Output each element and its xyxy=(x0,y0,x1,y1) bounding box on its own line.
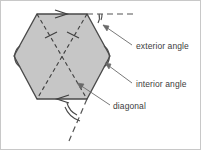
exterior-angle-marker-top-arc-inner-icon xyxy=(98,14,99,23)
diagonal-label: diagonal xyxy=(113,101,146,111)
diagram-canvas: exterior angle interior angle diagonal xyxy=(1,1,200,149)
hexagon-diagram-figure: exterior angle interior angle diagonal xyxy=(0,0,201,150)
exterior-angle-marker-top-arc-outer-icon xyxy=(101,14,102,20)
exterior-angle-label: exterior angle xyxy=(136,41,189,51)
interior-angle-label: interior angle xyxy=(136,79,187,89)
exterior-angle-marker-bottom-arc-outer-icon xyxy=(65,107,80,121)
leader-arrowhead-exterior-angle-icon xyxy=(103,25,109,31)
